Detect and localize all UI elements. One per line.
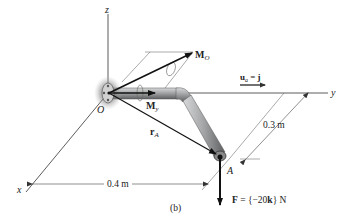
z-axis-label: z	[104, 4, 109, 15]
origin-label: O	[97, 104, 104, 115]
unit-vector-label: ua = j	[240, 72, 261, 83]
construction-line	[122, 52, 150, 82]
position-vector-label: rA	[150, 126, 159, 139]
pipe-diagonal	[183, 95, 225, 158]
moment-O-label: MO	[195, 49, 210, 62]
x-axis-label: x	[16, 184, 22, 195]
bolt	[103, 92, 105, 94]
pipe-moment-diagram: z y x O A MO My rA ua = j F = {−20k} N 0…	[0, 0, 347, 222]
x-axis	[26, 93, 108, 192]
moment-y-label: My	[146, 100, 159, 113]
extension-line	[202, 158, 230, 190]
dimension-0.3m: 0.3 m	[263, 120, 285, 130]
force-label: F = {−20k} N	[232, 195, 287, 205]
dimension-0.4m: 0.4 m	[107, 179, 129, 189]
bolt	[107, 99, 109, 101]
y-axis-label: y	[330, 87, 336, 98]
figure-caption: (b)	[170, 203, 181, 214]
point-A-label: A	[226, 165, 234, 176]
bolt	[107, 85, 109, 87]
moment-O-vector	[109, 53, 192, 93]
construction-line	[165, 52, 193, 88]
